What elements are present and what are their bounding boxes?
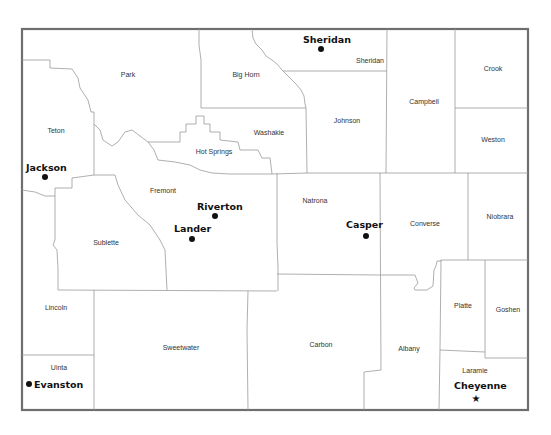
county-label-converse: Converse	[410, 220, 440, 227]
county-label-crook: Crook	[484, 65, 503, 72]
county-label-lincoln: Lincoln	[45, 304, 67, 311]
city-label-evanston: Evanston	[34, 379, 84, 390]
county-label-albany: Albany	[398, 345, 420, 353]
city-dot-jackson	[42, 174, 48, 180]
city-label-lander: Lander	[174, 223, 211, 234]
county-label-weston: Weston	[481, 136, 505, 143]
county-label-fremont: Fremont	[150, 187, 176, 194]
county-label-park: Park	[121, 71, 136, 78]
capital-star-icon: ★	[472, 393, 481, 404]
county-label-johnson: Johnson	[334, 117, 361, 124]
city-label-cheyenne: Cheyenne	[454, 380, 507, 391]
county-label-teton: Teton	[47, 127, 64, 134]
wyoming-county-map: Park Big Horn Sheridan Crook Teton Washa…	[0, 0, 551, 435]
county-label-niobrara: Niobrara	[487, 213, 514, 220]
county-label-sublette: Sublette	[93, 239, 119, 246]
county-label-campbell: Campbell	[409, 98, 439, 106]
county-label-uinta: Uinta	[51, 364, 67, 371]
county-label-platte: Platte	[454, 302, 472, 309]
county-label-laramie: Laramie	[462, 367, 487, 374]
county-label-goshen: Goshen	[496, 306, 521, 313]
county-label-carbon: Carbon	[310, 341, 333, 348]
county-label-sheridan: Sheridan	[356, 57, 384, 64]
county-label-natrona: Natrona	[303, 197, 328, 204]
city-dot-evanston	[26, 381, 32, 387]
city-label-riverton: Riverton	[197, 201, 243, 212]
state-border	[22, 29, 528, 410]
county-label-hot-springs: Hot Springs	[196, 148, 233, 156]
county-label-sweetwater: Sweetwater	[163, 344, 200, 351]
city-label-casper: Casper	[346, 219, 383, 230]
city-dot-casper	[363, 233, 369, 239]
city-dot-lander	[189, 236, 195, 242]
county-label-washakie: Washakie	[254, 129, 285, 136]
county-label-big-horn: Big Horn	[232, 71, 259, 79]
city-dot-sheridan	[318, 46, 324, 52]
city-dot-riverton	[212, 213, 218, 219]
city-label-sheridan: Sheridan	[303, 34, 351, 45]
city-label-jackson: Jackson	[25, 162, 67, 173]
